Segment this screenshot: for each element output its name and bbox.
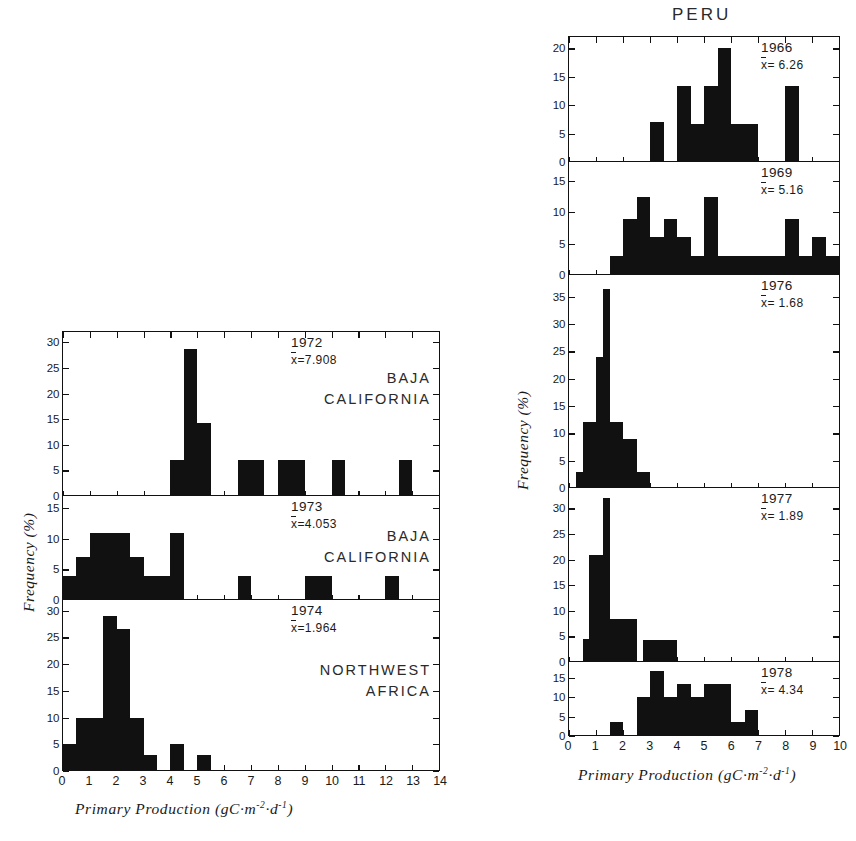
histogram-bar [677, 237, 691, 275]
y-axis-tick-right [833, 585, 839, 586]
y-axis-tick-right [433, 771, 439, 772]
y-axis-tick [569, 697, 575, 698]
histogram-bar [90, 533, 103, 600]
panel-region-label: NORTHWEST [320, 662, 431, 678]
y-axis-tick-right [433, 368, 439, 369]
left-y-axis-title: Frequency (%) [20, 513, 38, 612]
y-axis-tick [569, 560, 575, 561]
y-axis-tick [569, 717, 575, 718]
y-axis-tick-label: 10 [553, 99, 565, 111]
histogram-bar [76, 718, 89, 771]
x-axis-tick [332, 765, 333, 771]
mean-symbol: x [761, 296, 767, 310]
y-axis-tick-label: 5 [53, 464, 59, 476]
right-y-axis-title: Frequency (%) [514, 391, 532, 490]
right-panels: 051015201966x= 6.260510151969x= 5.160510… [568, 36, 840, 736]
panel-region-label: BAJA [387, 528, 431, 544]
mean-value: = 6.26 [767, 58, 803, 72]
y-axis-tick [63, 664, 69, 665]
y-axis-tick-label: 10 [553, 427, 565, 439]
y-axis-tick-right [833, 351, 839, 352]
mean-value: = 1.89 [767, 509, 803, 523]
histogram-bar [664, 219, 678, 276]
panel-mean-label: x=7.908 [291, 353, 337, 367]
mean-value: =1.964 [297, 621, 336, 635]
x-axis-tick [569, 730, 570, 736]
mean-value: = 1.68 [767, 296, 803, 310]
histogram-bar [144, 576, 157, 600]
histogram-panel-baja-1973: 0510151973x=4.053BAJACALIFORNIA [62, 496, 440, 600]
histogram-bar [643, 472, 650, 488]
y-axis-tick-right [833, 379, 839, 380]
y-axis-tick [569, 433, 575, 434]
y-axis-tick-right [833, 678, 839, 679]
histogram-bar [170, 744, 183, 771]
histogram-bar [318, 576, 331, 600]
mean-symbol: x [761, 509, 767, 523]
x-axis-tick [144, 332, 145, 338]
y-axis-tick [569, 508, 575, 509]
histogram-bar [772, 256, 786, 275]
histogram-bar [610, 619, 617, 663]
x-axis-tick [385, 765, 386, 771]
histogram-bar [576, 472, 583, 488]
histogram-panel-peru-1976: 051015202530351976x= 1.68 [568, 275, 840, 488]
x-axis-tick [785, 730, 786, 736]
histogram-bar [731, 256, 745, 275]
panel-region-label: AFRICA [366, 683, 431, 699]
x-axis-tick [251, 332, 252, 338]
y-axis-tick [63, 342, 69, 343]
histogram-bar [704, 86, 718, 162]
y-axis-tick-right [833, 324, 839, 325]
histogram-bar [643, 640, 650, 662]
panel-mean-label: x= 5.16 [761, 183, 804, 197]
x-axis-tick [650, 37, 651, 43]
mean-value: = 4.34 [767, 683, 803, 697]
plot-area [569, 162, 839, 275]
histogram-bar [630, 619, 637, 663]
mean-symbol: x [761, 58, 767, 72]
y-axis-tick [569, 105, 575, 106]
histogram-bar [670, 640, 677, 662]
plot-area [569, 37, 839, 162]
histogram-bar [650, 122, 664, 162]
x-axis-tick-label: 5 [701, 739, 708, 753]
y-axis-tick-right [433, 611, 439, 612]
x-axis-tick-label: 3 [646, 739, 653, 753]
y-axis-tick-label: 30 [47, 336, 59, 348]
y-axis-tick-right [433, 445, 439, 446]
y-axis-tick [63, 637, 69, 638]
x-axis-tick-label: 4 [673, 739, 680, 753]
histogram-bar [278, 460, 291, 496]
histogram-bar [745, 256, 759, 275]
x-axis-tick [385, 332, 386, 338]
y-axis-tick-label: 10 [47, 533, 59, 545]
x-axis-tick [305, 765, 306, 771]
x-axis-tick [439, 332, 440, 338]
y-axis-tick [63, 744, 69, 745]
x-axis-tick-label: 10 [833, 739, 847, 753]
histogram-bar [583, 639, 590, 662]
panel-year-label: 1978 [761, 665, 793, 680]
histogram-panel-peru-1969: 0510151969x= 5.16 [568, 162, 840, 275]
y-axis-tick-label: 5 [53, 563, 59, 575]
y-axis-tick-label: 30 [47, 605, 59, 617]
mean-value: =4.053 [297, 517, 336, 531]
histogram-bar [616, 422, 623, 488]
x-axis-tick [251, 765, 252, 771]
histogram-bar [745, 124, 759, 162]
histogram-panel-peru-1977: 0510152025301977x= 1.89 [568, 488, 840, 662]
x-axis-tick-label: 13 [406, 774, 420, 788]
histogram-bar [623, 619, 630, 663]
y-axis-tick-label: 0 [559, 656, 565, 668]
histogram-bar [603, 498, 610, 662]
y-axis-tick-right [833, 48, 839, 49]
y-axis-tick-label: 20 [47, 388, 59, 400]
y-axis-tick-label: 5 [559, 128, 565, 140]
x-axis-tick [170, 332, 171, 338]
y-axis-tick-right [433, 508, 439, 509]
x-axis-tick [731, 37, 732, 43]
histogram-bar [718, 48, 732, 162]
histogram-bar [785, 219, 799, 276]
y-axis-tick [63, 419, 69, 420]
